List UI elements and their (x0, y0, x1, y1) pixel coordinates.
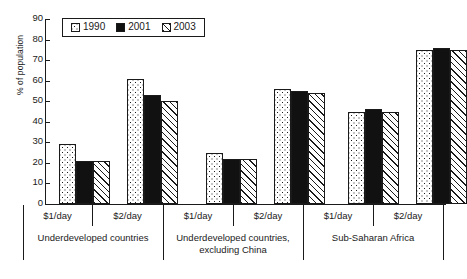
y-axis-tick-label: 0 (38, 197, 43, 208)
y-axis-tick-label: 90 (32, 12, 43, 23)
bar-2001-5 (365, 109, 382, 204)
bar-2003-1 (93, 161, 110, 204)
bar-group (348, 19, 399, 204)
legend-label-1990: 1990 (83, 22, 105, 32)
bar-2003-5 (382, 112, 399, 205)
bar-group (59, 19, 110, 204)
bar-2003-2 (161, 101, 178, 204)
legend-swatch-2003 (162, 23, 171, 32)
x-axis-group-label-line2: excluding China (163, 244, 303, 256)
bar-group (127, 19, 178, 204)
y-axis-tick-label: 70 (32, 53, 43, 64)
legend-label-2001: 2001 (128, 22, 150, 32)
legend-label-2003: 2003 (174, 22, 196, 32)
bar-2003-4 (308, 93, 325, 204)
x-axis-labels: $1/day$2/day$1/day$2/day$1/day$2/dayUnde… (45, 204, 446, 279)
plot-area (46, 19, 446, 204)
bar-1990-5 (348, 112, 365, 205)
bar-1990-2 (127, 79, 144, 204)
x-axis-group-label: Underdeveloped countries (23, 232, 163, 244)
y-axis-tick-label: 80 (32, 33, 43, 44)
x-axis-group-label: Sub-Saharan Africa (303, 232, 443, 244)
bar-1990-6 (416, 50, 433, 204)
bar-group (416, 19, 467, 204)
y-axis-tick-label: 60 (32, 74, 43, 85)
x-axis-sub-label: $1/day (23, 210, 92, 221)
chart-legend: 199020012003 (62, 18, 205, 37)
bar-2001-3 (223, 159, 240, 204)
bar-2003-3 (240, 159, 257, 204)
x-axis-sub-label: $1/day (303, 210, 373, 221)
legend-swatch-2001 (116, 23, 125, 32)
x-axis-group-label: Underdeveloped countries,excluding China (163, 232, 303, 255)
x-axis-sub-label: $2/day (373, 210, 443, 221)
y-axis-tick-label: 50 (32, 94, 43, 105)
bar-2001-6 (433, 48, 450, 204)
bar-2003-6 (450, 50, 467, 204)
legend-entry-1990: 1990 (71, 22, 105, 32)
bar-1990-3 (206, 153, 223, 204)
x-axis-group-label-line1: Underdeveloped countries (23, 232, 163, 244)
bar-1990-1 (59, 144, 76, 204)
bar-2001-1 (76, 161, 93, 204)
legend-entry-2003: 2003 (162, 22, 196, 32)
x-axis-sub-label: $2/day (233, 210, 303, 221)
bar-2001-2 (144, 95, 161, 204)
y-axis-tick-label: 10 (32, 176, 43, 187)
y-axis-tick-label: 40 (32, 115, 43, 126)
bar-group (206, 19, 257, 204)
bar-2001-4 (291, 91, 308, 204)
x-axis-group-label-line1: Sub-Saharan Africa (303, 232, 443, 244)
x-axis-sub-label: $1/day (163, 210, 233, 221)
bar-group (274, 19, 325, 204)
x-axis-group-label-line1: Underdeveloped countries, (163, 232, 303, 244)
x-axis-group-separator (443, 205, 444, 260)
bar-1990-4 (274, 89, 291, 204)
y-axis-tick-label: 20 (32, 156, 43, 167)
legend-entry-2001: 2001 (116, 22, 150, 32)
y-axis-tick-label: 30 (32, 135, 43, 146)
x-axis-sub-label: $2/day (92, 210, 163, 221)
legend-swatch-1990 (71, 23, 80, 32)
